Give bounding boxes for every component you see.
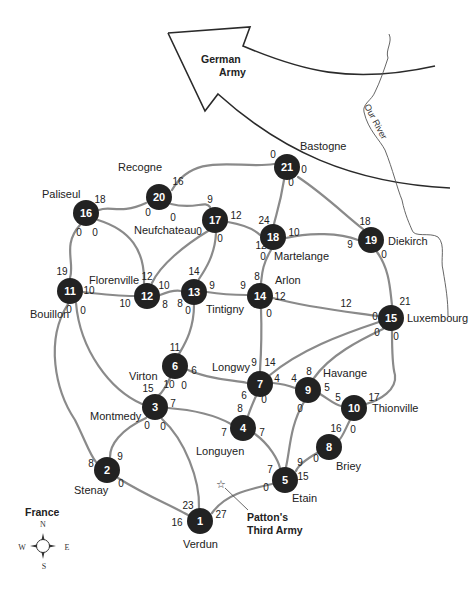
city-label: Florenville: [89, 274, 139, 286]
road-13-14: [207, 292, 247, 295]
node-number: 16: [80, 207, 92, 219]
node-number: 3: [152, 401, 158, 413]
army-label-line1: Patton's: [247, 511, 288, 523]
edge-weight: 16: [172, 176, 184, 187]
road-21-19: [298, 177, 363, 229]
edge-weight: 0: [217, 233, 223, 244]
edge-weight: 9: [117, 451, 123, 462]
road-17-18: [228, 222, 260, 235]
city-label: Neufchateau: [134, 224, 196, 236]
edge-weight: 0: [263, 482, 269, 493]
road-21-18: [274, 180, 284, 224]
node-number: 19: [365, 234, 377, 246]
edge-weight: 0: [181, 380, 187, 391]
country-label: France: [25, 506, 60, 518]
road-12-13: [160, 291, 181, 295]
edge-weight: 0: [160, 421, 166, 432]
edge-weight: 9: [207, 194, 213, 205]
edge-weight: 0: [350, 424, 356, 435]
city-label: Paliseul: [42, 188, 81, 200]
star-icon: ☆: [216, 478, 226, 490]
edge-weight: 14: [264, 357, 276, 368]
compass-west: W: [18, 543, 26, 552]
city-label: Martelange: [274, 250, 329, 262]
city-label: Tintigny: [206, 303, 245, 315]
edge-weight: 0: [76, 227, 82, 238]
edge-weight: 5: [335, 392, 341, 403]
edge-weight: 12: [274, 291, 286, 302]
edge-weight: 0: [145, 207, 151, 218]
edge-weight: 9: [251, 357, 257, 368]
edge-weight: 10: [288, 227, 300, 238]
edge-weight: 0: [185, 305, 191, 316]
city-label: Verdun: [183, 538, 218, 550]
edge-weight: 0: [92, 227, 98, 238]
edge-weight: 0: [301, 164, 307, 175]
node-number: 4: [240, 422, 247, 434]
edge-weight: 9: [209, 280, 215, 291]
edge-weight: 8: [88, 458, 94, 469]
city-label: Longuyen: [196, 445, 244, 457]
edge-weight: 0: [170, 212, 176, 223]
edge-weight: 0: [381, 249, 387, 260]
edge-weight: 7: [221, 427, 227, 438]
city-node-11: 11Bouillon: [30, 278, 83, 320]
node-number: 18: [267, 231, 279, 243]
edge-weight: 11: [170, 342, 181, 353]
edge-weight: 16: [330, 423, 342, 434]
edge-weight: 0: [288, 177, 294, 188]
node-number: 20: [153, 191, 165, 203]
road-17-12: [152, 231, 208, 283]
edge-weight: 0: [261, 394, 267, 405]
node-number: 13: [188, 286, 200, 298]
compass-rose: France N S W E: [18, 506, 69, 571]
arrow-label-line1: German: [201, 53, 241, 65]
edge-weight: 9: [240, 280, 246, 291]
edge-weight: 7: [259, 427, 265, 438]
edge-weight: 24: [258, 215, 270, 226]
edge-weight: 10: [163, 379, 175, 390]
city-label: Havange: [323, 367, 367, 379]
road-3-1: [162, 419, 199, 508]
road-7-9: [273, 383, 295, 388]
edge-weight: 0: [270, 149, 276, 160]
edge-weight: 0: [66, 304, 72, 315]
our-river: Our River: [362, 34, 448, 316]
edge-weight: 0: [144, 420, 150, 431]
edge-weight: 0: [297, 403, 303, 414]
city-label: Bouillon: [30, 308, 69, 320]
edge-weight: 17: [368, 392, 380, 403]
edge-weight: 18: [359, 216, 371, 227]
edge-weight: 16: [171, 517, 183, 528]
node-number: 1: [197, 515, 203, 527]
edge-weight: 0: [313, 453, 319, 464]
edge-weight: 12: [255, 240, 267, 251]
edge-weight: 9: [347, 239, 353, 250]
node-number: 8: [326, 441, 332, 453]
road-14-7: [260, 309, 261, 371]
node-number: 17: [209, 214, 221, 226]
city-node-2: 2Stenay: [74, 457, 120, 496]
edge-weight: 19: [56, 266, 68, 277]
city-node-21: 21Bastogne: [274, 140, 346, 180]
road-19-15: [377, 252, 392, 305]
edge-weight: 6: [241, 390, 247, 401]
city-label: Briey: [336, 460, 362, 472]
node-number: 2: [104, 464, 110, 476]
node-number: 9: [305, 384, 311, 396]
edge-weight: 12: [340, 298, 352, 309]
road-20-17: [171, 204, 210, 207]
city-label: Longwy: [212, 361, 250, 373]
road-7-4: [248, 396, 256, 416]
edge-weight: 27: [215, 509, 227, 520]
city-label: Montmedy: [90, 410, 142, 422]
node-number: 5: [282, 474, 288, 486]
compass-east: E: [65, 543, 70, 552]
road-3-4: [168, 408, 231, 424]
city-node-16: 16Paliseul: [42, 188, 99, 226]
city-label: Stenay: [74, 484, 109, 496]
road-17-13: [199, 233, 216, 279]
edge-weight: 12: [141, 271, 153, 282]
edge-weight: 10: [119, 298, 131, 309]
city-label: Diekirch: [388, 235, 428, 247]
